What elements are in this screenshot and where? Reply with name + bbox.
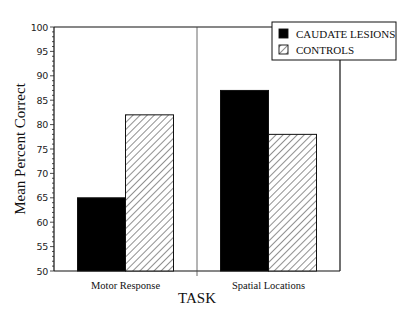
y-axis-title: Mean Percent Correct [12, 82, 28, 214]
legend-swatch-solid-icon [279, 29, 288, 38]
bar-caudate-lesions-spatial-locations [221, 90, 269, 271]
x-axis-title: TASK [178, 290, 216, 306]
y-tick-label: 85 [37, 95, 49, 106]
bar-chart: 50556065707580859095100 Motor ResponseSp… [0, 0, 414, 317]
y-tick-label: 70 [37, 168, 49, 179]
y-tick-label: 100 [31, 22, 48, 33]
y-tick-label: 75 [37, 144, 49, 155]
legend: CAUDATE LESIONSCONTROLS [272, 22, 396, 60]
legend-label: CONTROLS [296, 44, 354, 56]
y-axis: 50556065707580859095100 [31, 22, 54, 277]
plot-area [54, 27, 340, 276]
x-tick-label: Motor Response [91, 280, 160, 291]
y-tick-label: 55 [37, 241, 49, 252]
y-tick-label: 90 [37, 70, 49, 81]
legend-swatch-hatch-icon [279, 45, 288, 54]
bar-controls-motor-response [126, 115, 174, 271]
y-tick-label: 50 [37, 266, 49, 277]
legend-label: CAUDATE LESIONS [296, 28, 395, 40]
bar-controls-spatial-locations [269, 134, 317, 271]
y-tick-label: 95 [37, 46, 49, 57]
bar-caudate-lesions-motor-response [78, 198, 126, 271]
y-tick-label: 80 [37, 119, 49, 130]
x-tick-label: Spatial Locations [232, 280, 305, 291]
y-tick-label: 65 [37, 192, 49, 203]
y-tick-label: 60 [37, 217, 49, 228]
